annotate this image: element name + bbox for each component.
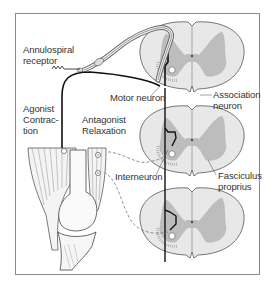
label-annulospiral-receptor: Annulospiral receptor: [23, 44, 74, 66]
label-antagonist-relaxation: Antagonist Relaxation: [82, 114, 126, 136]
tibia: [58, 232, 96, 270]
annulospiral-receptor-icon: [52, 66, 80, 69]
label-fasciculus-proprius: Fasciculus proprius: [218, 170, 262, 192]
reflex-diagram: [0, 0, 274, 283]
label-agonist-contraction: Agonist Contrac- tion: [23, 103, 59, 136]
label-association-neuron: Association neuron: [213, 89, 260, 111]
spinal-section-middle: [140, 106, 244, 176]
spinal-section-lower: [140, 188, 244, 258]
motor-endplate-icon: [61, 148, 66, 153]
spinal-section-upper: [140, 22, 244, 92]
label-interneuron: Interneuron: [115, 171, 163, 182]
label-motor-neuron: Motor neuron: [110, 92, 165, 103]
